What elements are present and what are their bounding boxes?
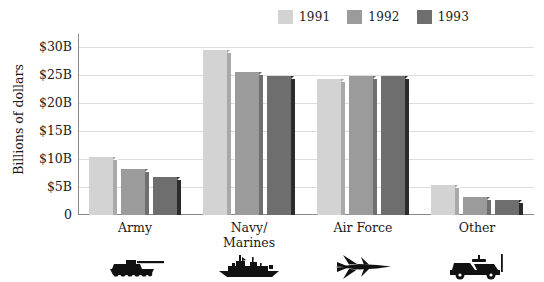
legend-label-1992: 1992 [368, 11, 399, 23]
bar-face [349, 76, 373, 215]
legend-swatch-1992 [347, 10, 362, 24]
bar-top-bevel [455, 185, 462, 188]
bar-top-bevel [487, 197, 494, 200]
bars [420, 41, 534, 215]
bar-side [227, 50, 231, 215]
bar-face [431, 185, 455, 215]
bar-chart: 1991 1992 1993 Billions of dollars $30B$… [0, 0, 544, 282]
plot-area [78, 41, 534, 215]
bars [78, 41, 192, 215]
bar[interactable] [381, 76, 409, 215]
x-axis-label-line: Army [78, 220, 192, 235]
y-tick-label: 0 [64, 209, 72, 221]
x-axis-label-line: Other [420, 220, 534, 235]
tank-icon [78, 252, 192, 282]
bars [192, 41, 306, 215]
legend-label-1993: 1993 [438, 11, 469, 23]
bar-top-bevel [405, 76, 412, 79]
bar-top-bevel [113, 157, 120, 160]
bar-top-bevel [373, 76, 380, 79]
legend-swatch-1993 [417, 10, 432, 24]
bar-groups [78, 41, 534, 215]
legend-swatch-1991 [278, 10, 293, 24]
legend-item-1992[interactable]: 1992 [347, 10, 399, 24]
bar-side [113, 157, 117, 215]
x-axis-label-line: Air Force [306, 220, 420, 235]
bar-top-bevel [291, 76, 298, 79]
bar[interactable] [317, 79, 345, 215]
x-axis-label-line: Navy/ [192, 220, 306, 235]
bar-side [405, 76, 409, 215]
bar-group [192, 41, 306, 215]
bar[interactable] [203, 50, 231, 215]
humvee-icon [420, 252, 534, 282]
y-tick-label: $25B [39, 69, 72, 81]
bar-face [317, 79, 341, 215]
bar-face [235, 72, 259, 215]
bar-top-bevel [259, 72, 266, 75]
bar-top-bevel [145, 169, 152, 172]
bar-face [203, 50, 227, 215]
bar[interactable] [463, 197, 491, 215]
y-tick-label: $20B [39, 97, 72, 109]
y-tick-label: $15B [39, 125, 72, 137]
bar-top-bevel [227, 50, 234, 53]
bars [306, 41, 420, 215]
bar-face [463, 197, 487, 215]
bar-face [121, 169, 145, 215]
bar-top-bevel [519, 200, 526, 203]
y-tick-label: $30B [39, 41, 72, 53]
bar[interactable] [495, 200, 523, 215]
legend-label-1991: 1991 [299, 11, 330, 23]
bar-group [78, 41, 192, 215]
bar-face [495, 200, 519, 215]
y-tick-label: $5B [47, 181, 72, 193]
bar-face [89, 157, 113, 215]
bar[interactable] [431, 185, 459, 215]
bar[interactable] [121, 169, 149, 215]
bar[interactable] [89, 157, 117, 215]
bar-group [420, 41, 534, 215]
bar-side [145, 169, 149, 215]
legend-item-1993[interactable]: 1993 [417, 10, 469, 24]
bar-face [267, 76, 291, 215]
bar-face [153, 177, 177, 215]
x-axis-label-line: Marines [192, 235, 306, 250]
bar-top-bevel [177, 177, 184, 180]
bar-face [381, 76, 405, 215]
fighter-jet-icon [306, 252, 420, 282]
battleship-icon [192, 252, 306, 282]
bar-side [259, 72, 263, 215]
y-axis-ticks: $30B$25B$20B$15B$10B$5B0 [0, 34, 76, 222]
bar-side [341, 79, 345, 215]
bar[interactable] [153, 177, 181, 215]
bar-top-bevel [341, 79, 348, 82]
y-tick-label: $10B [39, 153, 72, 165]
bar[interactable] [235, 72, 263, 215]
bar-group [306, 41, 420, 215]
legend-item-1991[interactable]: 1991 [278, 10, 330, 24]
bar-side [177, 177, 181, 215]
category-icons [78, 252, 534, 282]
bar-side [291, 76, 295, 215]
bar[interactable] [349, 76, 377, 215]
bar-side [373, 76, 377, 215]
chart-legend: 1991 1992 1993 [278, 10, 469, 24]
bar[interactable] [267, 76, 295, 215]
bar-side [455, 185, 459, 215]
